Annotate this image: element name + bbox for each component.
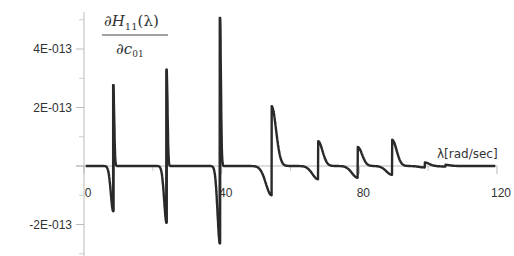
y-label-numerator: ∂H11(λ) [104,12,159,32]
chart: 4E-0132E-013-2E-01304080120 ∂H11(λ) ∂c01… [0,0,514,256]
y-axis-label: ∂H11(λ) ∂c01 [102,12,168,59]
y-tick-label: 4E-013 [33,42,72,56]
y-tick-label: 2E-013 [33,101,72,115]
y-label-denominator: ∂c01 [116,40,144,59]
x-axis-label: λ[rad/sec] [437,147,498,161]
data-line [86,19,496,243]
y-tick-label: -2E-013 [29,218,72,232]
x-tick-label: 80 [357,186,371,200]
ticks: 4E-0132E-013-2E-01304080120 [29,20,511,254]
x-tick-label: 120 [491,186,511,200]
x-tick-label: 0 [85,186,92,200]
